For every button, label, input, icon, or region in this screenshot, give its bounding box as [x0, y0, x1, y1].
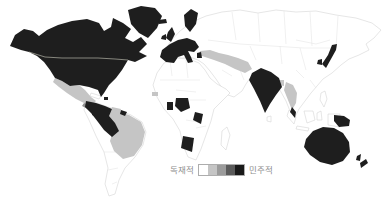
- region-greenland: [128, 6, 162, 38]
- region-hispaniola: [104, 97, 108, 100]
- region-borneo: [304, 111, 315, 123]
- legend-color-ramp: [198, 164, 245, 176]
- region-java: [296, 126, 309, 131]
- map-figure: 독재적 민주적: [0, 0, 386, 200]
- legend-swatch: [235, 165, 244, 175]
- legend-swatch: [226, 165, 235, 175]
- region-zimbabwe-botswana: [181, 136, 194, 152]
- region-senegal: [152, 92, 158, 96]
- legend-label-autocratic: 독재적: [170, 166, 194, 175]
- region-australia: [304, 127, 350, 165]
- region-ghana: [167, 102, 173, 110]
- legend-swatch: [199, 165, 208, 175]
- region-new-zealand-north: [356, 154, 361, 161]
- region-philippines: [320, 91, 327, 107]
- region-ireland: [161, 34, 166, 40]
- legend-swatch: [217, 165, 226, 175]
- region-sulawesi: [317, 111, 322, 120]
- region-madagascar: [221, 127, 230, 150]
- region-sri-lanka: [267, 116, 271, 122]
- legend: 독재적 민주적: [170, 164, 273, 176]
- legend-label-democratic: 민주적: [249, 166, 273, 175]
- region-new-zealand-south: [360, 159, 368, 168]
- legend-swatch: [208, 165, 217, 175]
